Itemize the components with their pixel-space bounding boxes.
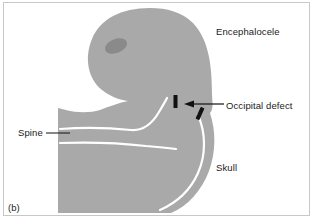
label-spine: Spine [18, 128, 43, 138]
label-occipital-defect: Occipital defect [226, 101, 293, 111]
panel-caption: (b) [8, 203, 20, 213]
label-encephalocele: Encephalocele [216, 27, 280, 37]
tissue-silhouette [58, 8, 214, 213]
label-skull: Skull [216, 163, 237, 173]
defect-marker-superior [174, 95, 178, 108]
figure-container: Encephalocele Occipital defect Spine Sku… [0, 0, 314, 221]
